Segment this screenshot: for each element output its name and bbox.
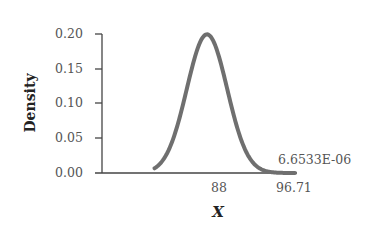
x-tick-mean: 88 [211,180,227,195]
y-tick-0-00: 0.00 [55,165,83,180]
x-tick-value: 96.71 [276,180,312,195]
x-axis-title: X [212,203,224,221]
tail-probability-annotation: 6.6533E-06 [278,152,351,167]
y-axis [95,34,102,173]
y-tick-0-20: 0.20 [55,26,83,41]
y-axis-title: Density [22,73,38,132]
y-tick-0-05: 0.05 [55,130,83,145]
y-tick-0-10: 0.10 [55,95,83,110]
density-curve [154,34,295,173]
y-tick-0-15: 0.15 [55,61,83,76]
